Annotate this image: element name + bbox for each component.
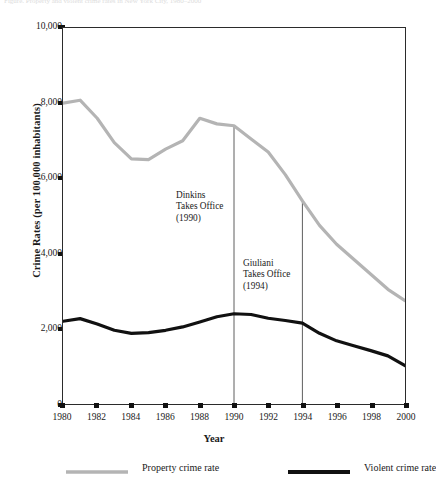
plot-svg	[63, 28, 405, 404]
x-axis-title: Year	[0, 433, 428, 444]
annotation-giuliani-line-3: (1994)	[243, 281, 290, 292]
legend-swatch-property	[66, 469, 128, 475]
x-tick-2000	[404, 403, 409, 408]
legend-swatch-violent	[288, 469, 350, 475]
annotation-dinkins-line-2: Takes Office	[176, 201, 223, 212]
annotation-dinkins-line-1: Dinkins	[176, 190, 223, 201]
x-tick-1996	[335, 403, 340, 408]
x-tick-1994	[301, 403, 306, 408]
annotation-giuliani-line-2: Takes Office	[243, 269, 290, 280]
x-tick-1982	[94, 403, 99, 408]
legend-label-property: Property crime rate	[142, 462, 219, 473]
y-tick-label-10000: 10,000	[10, 22, 62, 32]
x-tick-1990	[232, 403, 237, 408]
annotation-giuliani: GiulianiTakes Office(1994)	[243, 258, 290, 292]
annotation-dinkins-line-3: (1990)	[176, 213, 223, 224]
annotation-giuliani-line-1: Giuliani	[243, 258, 290, 269]
x-tick-1998	[370, 403, 375, 408]
x-tick-1988	[198, 403, 203, 408]
x-tick-1984	[129, 403, 134, 408]
legend-label-violent: Violent crime rate	[364, 462, 436, 473]
y-tick-label-0: 0	[10, 400, 62, 410]
y-tick-label-2000: 2,000	[10, 324, 62, 334]
cropped-header-text: Figure. Property and violent crime rates…	[4, 0, 424, 7]
y-axis-title: Crime Rates (per 100,000 inhabitants)	[31, 76, 42, 306]
x-tick-label-2000: 2000	[386, 412, 426, 422]
annotation-dinkins: DinkinsTakes Office(1990)	[176, 190, 223, 224]
chart-legend: Property crime rate Violent crime rate	[0, 460, 428, 484]
plot-area	[62, 27, 406, 405]
x-tick-1980	[60, 403, 65, 408]
x-tick-1986	[163, 403, 168, 408]
x-tick-1992	[266, 403, 271, 408]
